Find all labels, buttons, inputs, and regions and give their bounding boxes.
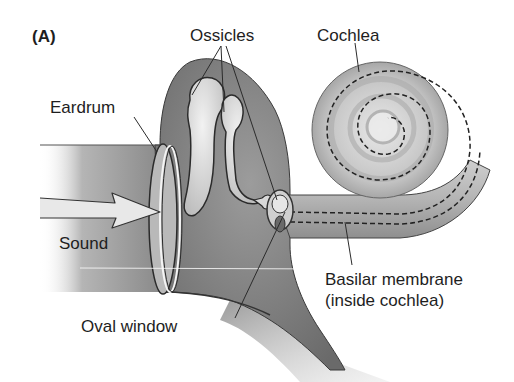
ossicles-label: Ossicles	[190, 26, 254, 45]
cochlea-label: Cochlea	[317, 26, 379, 45]
oval-window-label: Oval window	[81, 317, 177, 336]
ear-illustration	[0, 0, 514, 382]
basilar-membrane-label: Basilar membrane	[325, 270, 463, 289]
basilar-membrane-sublabel: (inside cochlea)	[325, 291, 444, 310]
ear-diagram: (A) Ossicles Cochlea Eardrum Sound Oval …	[0, 0, 514, 382]
sound-label: Sound	[59, 234, 108, 253]
panel-label: (A)	[32, 27, 56, 46]
eardrum-label: Eardrum	[50, 98, 115, 117]
cochlea-spiral	[312, 62, 448, 198]
